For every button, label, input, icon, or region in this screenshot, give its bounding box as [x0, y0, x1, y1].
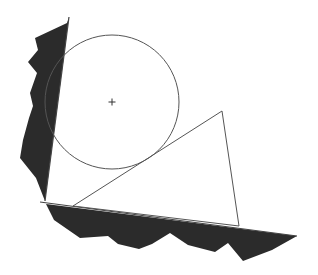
- floor-hatch: [46, 204, 297, 261]
- triangle: [73, 111, 239, 226]
- circle-center-marker-icon: [109, 99, 116, 106]
- wall-hatch: [20, 17, 69, 201]
- diagram-canvas: [0, 0, 318, 275]
